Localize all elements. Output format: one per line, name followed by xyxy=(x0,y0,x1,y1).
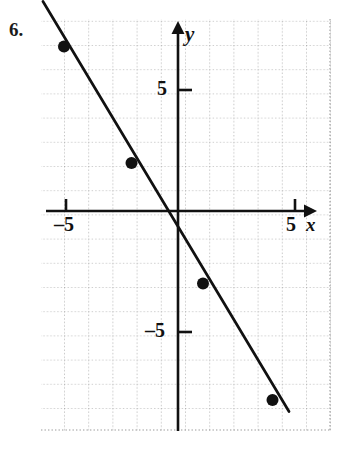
data-point-3 xyxy=(197,278,209,290)
y-axis-tick-label-plus5: 5 xyxy=(157,78,167,98)
graph-figure: 6. xyxy=(0,0,357,455)
x-axis-tick-label-plus5: 5 xyxy=(286,214,296,234)
x-axis-tick-label-minus5: –5 xyxy=(54,214,74,234)
data-point-2 xyxy=(126,157,138,169)
x-axis-name-label: x xyxy=(306,215,316,234)
data-point-1 xyxy=(58,41,70,53)
y-axis-tick-label-minus5: –5 xyxy=(145,320,165,340)
data-point-4 xyxy=(267,394,279,406)
y-axis-name-label: y xyxy=(185,24,194,45)
